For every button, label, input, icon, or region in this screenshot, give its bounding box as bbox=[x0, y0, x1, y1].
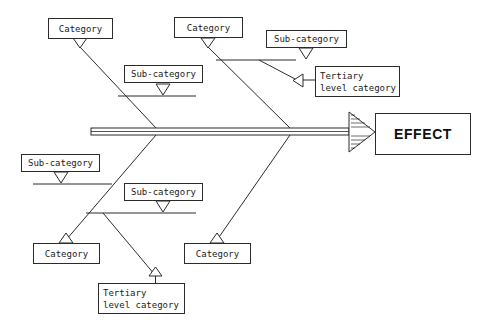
arrow-down-top-right-sub-icon bbox=[299, 48, 313, 59]
node-bottom-mid-sub-category[interactable]: Sub-category bbox=[124, 183, 203, 201]
node-label: Sub-category bbox=[28, 157, 93, 169]
node-label-line1: Tertiary bbox=[103, 287, 146, 299]
node-bottom-left-category[interactable]: Category bbox=[33, 243, 100, 264]
spine-arrowhead-icon bbox=[349, 112, 375, 152]
node-label-line2: level category bbox=[103, 299, 179, 311]
arrow-down-bottom-left-sub-icon bbox=[54, 172, 68, 183]
tertiary-line-bottom bbox=[103, 213, 162, 283]
node-label: Category bbox=[59, 23, 102, 35]
arrow-up-bottom-right-category-icon bbox=[210, 233, 224, 243]
arrow-down-top-left-category-icon bbox=[73, 38, 87, 48]
effect-box[interactable]: EFFECT bbox=[375, 113, 471, 155]
node-top-right-sub-category[interactable]: Sub-category bbox=[266, 30, 347, 48]
node-label: Sub-category bbox=[131, 186, 196, 198]
node-label-line2: level category bbox=[320, 82, 396, 94]
node-bottom-right-category[interactable]: Category bbox=[184, 243, 251, 264]
branch-line-top-left bbox=[80, 47, 156, 128]
branch-line-top-mid bbox=[208, 47, 290, 128]
node-label: Category bbox=[187, 22, 230, 34]
tertiary-line-top bbox=[259, 60, 315, 87]
node-bottom-left-sub-category[interactable]: Sub-category bbox=[21, 154, 100, 172]
arrow-down-bottom-mid-sub-icon bbox=[156, 201, 170, 212]
arrow-down-top-mid-category-icon bbox=[201, 38, 215, 48]
arrow-down-top-left-sub-icon bbox=[156, 84, 170, 95]
main-spine bbox=[91, 128, 349, 135]
effect-label: EFFECT bbox=[394, 126, 452, 142]
node-label: Category bbox=[45, 248, 88, 260]
node-label: Category bbox=[196, 248, 239, 260]
fishbone-diagram-canvas: Category Category Sub-category Sub-categ… bbox=[0, 0, 491, 330]
node-top-mid-category[interactable]: Category bbox=[174, 17, 243, 38]
branch-line-bottom-right bbox=[217, 135, 290, 240]
node-top-left-sub-category[interactable]: Sub-category bbox=[124, 65, 203, 83]
node-top-left-category[interactable]: Category bbox=[48, 18, 113, 39]
node-label: Sub-category bbox=[274, 33, 339, 45]
node-top-tertiary-category[interactable]: Tertiary level category bbox=[315, 66, 400, 97]
node-label: Sub-category bbox=[131, 68, 196, 80]
node-bottom-tertiary-category[interactable]: Tertiary level category bbox=[98, 283, 185, 314]
node-label-line1: Tertiary bbox=[320, 70, 363, 82]
